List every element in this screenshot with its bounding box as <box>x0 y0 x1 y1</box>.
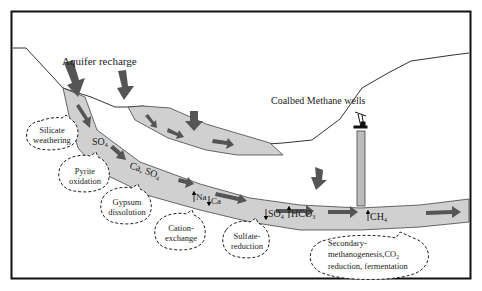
svg-text:Pyrite: Pyrite <box>75 166 96 176</box>
svg-text:Sulfate-: Sulfate- <box>234 231 261 241</box>
svg-text:dissolution: dissolution <box>108 207 146 217</box>
svg-text:Gypsum: Gypsum <box>113 197 142 207</box>
svg-text:Silicate: Silicate <box>39 125 65 135</box>
svg-text:Secondary-: Secondary- <box>328 238 367 248</box>
geochemical-conceptual-diagram: Aquifer recharge Coalbed Methane wells S… <box>0 0 482 291</box>
species-so4-hco3: SO4 HCO3 <box>266 208 315 220</box>
svg-text:oxidation: oxidation <box>69 176 102 186</box>
svg-text:reduction, fermentation: reduction, fermentation <box>328 261 409 271</box>
svg-text:Cation-: Cation- <box>168 223 194 233</box>
aquifer-recharge-label: Aquifer recharge <box>62 55 137 67</box>
methane-well-casing <box>357 131 365 206</box>
svg-text:weathering: weathering <box>33 135 72 145</box>
svg-text:reduction: reduction <box>231 241 264 251</box>
svg-text:exchange: exchange <box>165 233 197 243</box>
svg-text:Na: Na <box>196 192 207 202</box>
svg-text:HCO3: HCO3 <box>291 208 315 220</box>
cbm-wells-label: Coalbed Methane wells <box>271 95 366 106</box>
svg-text:Ca: Ca <box>211 196 221 206</box>
svg-text:methanogenesis,CO2: methanogenesis,CO2 <box>328 249 399 260</box>
